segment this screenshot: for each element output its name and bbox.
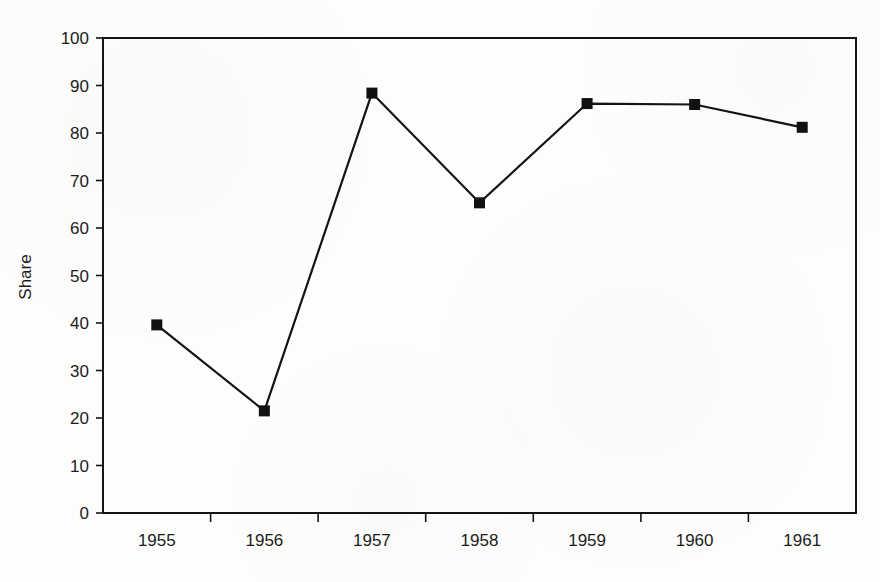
y-tick-0: 0 (80, 504, 103, 523)
y-tick-label: 30 (70, 362, 89, 381)
data-point-marker (474, 197, 485, 208)
data-point-marker (689, 99, 700, 110)
y-tick-label: 80 (70, 124, 89, 143)
x-tick-label: 1959 (568, 531, 606, 550)
y-tick-80: 80 (70, 124, 103, 143)
y-tick-label: 40 (70, 314, 89, 333)
y-tick-100: 100 (61, 29, 103, 48)
y-tick-label: 50 (70, 267, 89, 286)
x-tick-label: 1957 (353, 531, 391, 550)
y-tick-20: 20 (70, 409, 103, 428)
y-tick-90: 90 (70, 77, 103, 96)
y-tick-label: 100 (61, 29, 89, 48)
x-tick-label: 1956 (245, 531, 283, 550)
y-axis-title: Share (16, 254, 35, 299)
line-chart: 0 10 20 30 40 50 (0, 0, 880, 582)
data-point-marker (366, 88, 377, 99)
y-tick-30: 30 (70, 362, 103, 381)
y-tick-50: 50 (70, 267, 103, 286)
data-point-marker (582, 98, 593, 109)
y-tick-label: 10 (70, 457, 89, 476)
y-axis: 0 10 20 30 40 50 (61, 29, 103, 523)
x-axis: 1955 1956 1957 1958 1959 1960 1961 (138, 513, 821, 550)
series-line (157, 93, 802, 411)
y-tick-60: 60 (70, 219, 103, 238)
y-tick-label: 0 (80, 504, 89, 523)
data-point-marker (259, 405, 270, 416)
y-tick-40: 40 (70, 314, 103, 333)
plot-area-frame (103, 38, 856, 513)
series-markers (151, 88, 807, 417)
x-tick-label: 1955 (138, 531, 176, 550)
y-tick-label: 70 (70, 172, 89, 191)
x-tick-label: 1958 (461, 531, 499, 550)
y-tick-label: 20 (70, 409, 89, 428)
y-tick-10: 10 (70, 457, 103, 476)
y-tick-label: 90 (70, 77, 89, 96)
data-point-marker (797, 122, 808, 133)
x-tick-label: 1960 (676, 531, 714, 550)
x-tick-label: 1961 (783, 531, 821, 550)
chart-page: 0 10 20 30 40 50 (0, 0, 880, 582)
y-tick-70: 70 (70, 172, 103, 191)
y-tick-label: 60 (70, 219, 89, 238)
data-point-marker (151, 319, 162, 330)
